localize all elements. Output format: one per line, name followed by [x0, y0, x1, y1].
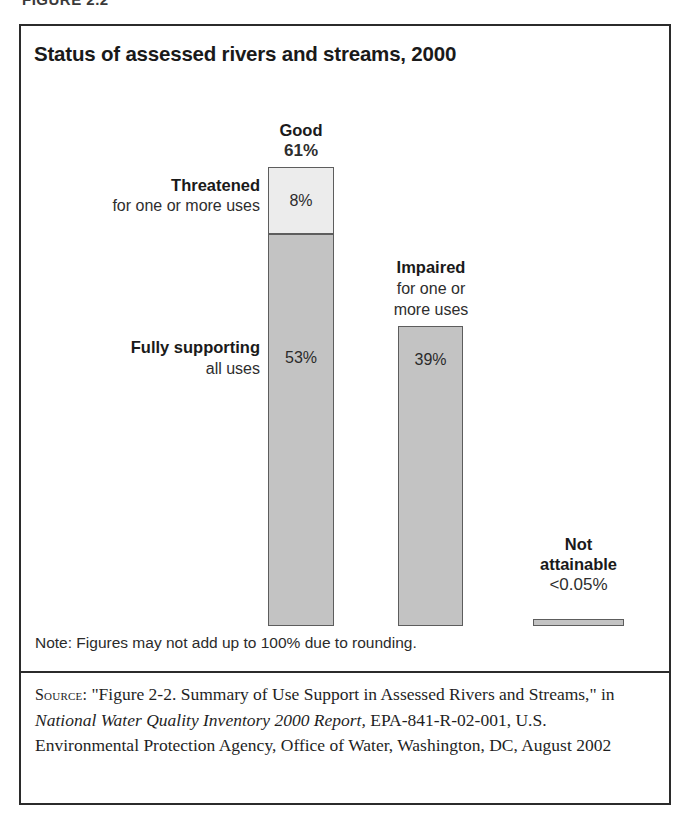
bar-value-threatened: 8%	[268, 192, 334, 210]
bar-value-impaired: 39%	[398, 351, 463, 369]
label-good-title: Good	[268, 120, 334, 140]
source-italic-title: National Water Quality Inventory 2000 Re…	[35, 710, 366, 730]
label-fully-supporting-title: Fully supporting	[20, 337, 260, 358]
label-not-attainable-title-line1: Not	[523, 534, 634, 554]
label-fully-supporting-subtitle: all uses	[20, 358, 260, 379]
source-divider	[21, 671, 669, 673]
bar-not-attainable[interactable]	[533, 619, 624, 626]
label-not-attainable: Not attainable <0.05%	[523, 534, 634, 596]
label-impaired: Impaired for one or more uses	[388, 257, 474, 320]
label-threatened-title: Threatened	[20, 175, 260, 195]
label-impaired-subtitle-line1: for one or	[388, 278, 474, 299]
label-impaired-title: Impaired	[388, 257, 474, 278]
chart-note: Note: Figures may not add up to 100% due…	[35, 634, 417, 652]
label-threatened: Threatened for one or more uses	[20, 175, 260, 216]
source-block: Source: "Figure 2-2. Summary of Use Supp…	[35, 682, 635, 759]
chart-title: Status of assessed rivers and streams, 2…	[34, 42, 456, 66]
label-fully-supporting: Fully supporting all uses	[20, 337, 260, 379]
bar-impaired[interactable]	[398, 326, 463, 626]
source-text-before-italic: "Figure 2-2. Summary of Use Support in A…	[87, 684, 615, 704]
label-not-attainable-value: <0.05%	[523, 574, 634, 596]
bar-value-fully-supporting: 53%	[268, 349, 334, 367]
label-good-value: 61%	[268, 140, 334, 161]
label-good: Good 61%	[268, 120, 334, 161]
label-not-attainable-title-line2: attainable	[523, 554, 634, 574]
label-impaired-subtitle-line2: more uses	[388, 299, 474, 320]
bar-segment-fully-supporting[interactable]	[268, 234, 334, 626]
figure-caption-cutoff: FIGURE 2.2	[22, 0, 202, 5]
source-label: Source:	[35, 686, 87, 703]
label-threatened-subtitle: for one or more uses	[20, 195, 260, 216]
